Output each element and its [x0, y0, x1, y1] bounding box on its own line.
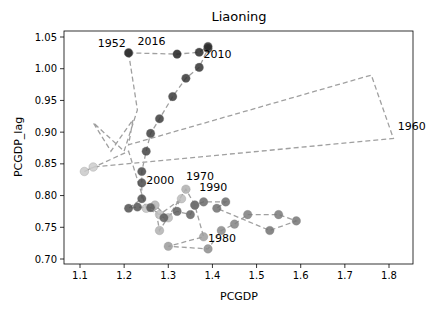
x-tick-label: 1.5	[249, 270, 265, 281]
scatter-chart: Liaoning 1.11.21.31.41.51.61.71.8 0.700.…	[0, 0, 437, 309]
y-axis-label: PCGDP_lag	[12, 117, 25, 177]
data-point	[266, 226, 275, 235]
year-annotation: 1980	[208, 232, 236, 245]
data-point	[186, 210, 195, 219]
data-point	[199, 233, 208, 242]
data-point	[199, 198, 208, 207]
data-point	[138, 179, 147, 188]
data-point	[160, 214, 169, 223]
data-point	[168, 92, 177, 101]
data-point	[292, 217, 301, 226]
data-point	[204, 245, 213, 254]
data-point	[274, 210, 283, 219]
x-tick-label: 1.8	[381, 270, 397, 281]
year-annotation: 1952	[98, 37, 126, 50]
data-point	[182, 74, 191, 83]
data-point	[173, 50, 182, 59]
axes-frame	[64, 31, 413, 264]
year-annotation: 2010	[204, 48, 232, 61]
data-point	[89, 163, 98, 172]
x-tick-label: 1.4	[204, 270, 220, 281]
data-point	[138, 194, 147, 203]
data-point	[243, 210, 252, 219]
y-tick-label: 0.75	[35, 222, 57, 233]
y-tick-label: 1.05	[35, 32, 57, 43]
y-tick-label: 0.85	[35, 158, 57, 169]
year-annotation: 2000	[146, 174, 174, 187]
data-point	[230, 220, 239, 229]
x-tick-label: 1.2	[116, 270, 132, 281]
year-annotation: 1960	[398, 120, 426, 133]
data-point	[221, 198, 230, 207]
data-point	[164, 242, 173, 251]
trajectory-line	[84, 47, 393, 249]
y-tick-label: 0.70	[35, 254, 57, 265]
data-point	[133, 203, 142, 212]
year-annotation: 2016	[137, 35, 165, 48]
x-tick-label: 1.7	[337, 270, 353, 281]
data-point	[173, 207, 182, 216]
y-tick-label: 0.95	[35, 95, 57, 106]
data-point	[155, 226, 164, 235]
plot-area	[80, 42, 393, 253]
data-point	[124, 204, 133, 213]
x-tick-label: 1.6	[293, 270, 309, 281]
data-point	[191, 201, 200, 210]
x-tick-label: 1.1	[72, 270, 88, 281]
chart-title: Liaoning	[211, 9, 266, 24]
data-point	[80, 167, 89, 176]
y-tick-label: 0.90	[35, 127, 57, 138]
y-tick-label: 1.00	[35, 63, 57, 74]
data-point	[155, 115, 164, 124]
data-point	[138, 167, 147, 176]
data-point	[195, 63, 204, 72]
data-point	[177, 194, 186, 203]
data-point	[146, 129, 155, 138]
y-tick-label: 0.80	[35, 190, 57, 201]
year-annotation: 1990	[199, 181, 227, 194]
data-point	[124, 49, 133, 58]
data-point	[195, 48, 204, 57]
x-axis-label: PCGDP	[220, 290, 258, 303]
x-axis-ticks: 1.11.21.31.41.51.61.71.8	[72, 264, 397, 281]
y-axis-ticks: 0.700.750.800.850.900.951.001.05	[35, 32, 64, 265]
data-point	[213, 204, 222, 213]
data-point	[142, 147, 151, 156]
x-tick-label: 1.3	[160, 270, 176, 281]
data-point	[146, 203, 155, 212]
data-point	[182, 185, 191, 194]
